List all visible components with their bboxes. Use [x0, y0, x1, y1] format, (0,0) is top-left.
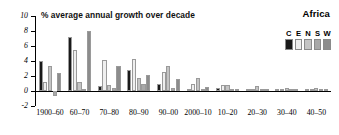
bar-n-1	[77, 82, 81, 91]
y-axis-tick-label: 4	[24, 57, 28, 65]
bar-group	[305, 16, 328, 106]
bar-e-4	[162, 72, 166, 92]
bar-group	[216, 16, 239, 106]
bar-s-0	[53, 91, 57, 96]
bar-w-8	[294, 89, 298, 91]
bar-group	[187, 16, 210, 106]
x-axis-labels: 1900–6060–7070–8080–9090–002000–1010–202…	[35, 108, 331, 122]
bar-s-7	[260, 89, 264, 91]
x-axis-label: 70–80	[99, 108, 119, 118]
bar-s-1	[82, 89, 86, 91]
y-axis-tick: -2	[31, 106, 36, 107]
bar-e-7	[250, 89, 254, 91]
bar-e-6	[221, 85, 225, 91]
bar-s-3	[141, 84, 145, 92]
y-axis-tick: 8	[31, 31, 36, 32]
y-axis-tick-label: 8	[24, 27, 28, 35]
bar-s-2	[112, 88, 116, 91]
bar-e-9	[310, 89, 314, 91]
bar-n-4	[166, 66, 170, 92]
x-axis-label: 1900–60	[36, 108, 63, 118]
y-axis-tick-label: 0	[24, 87, 28, 95]
bar-s-9	[319, 89, 323, 91]
bar-c-9	[305, 89, 309, 91]
bar-group	[157, 16, 180, 106]
bar-group	[98, 16, 121, 106]
y-axis-tick: 6	[31, 46, 36, 47]
bar-w-0	[57, 73, 61, 91]
x-axis-label: 2000–10	[184, 108, 211, 118]
bar-c-1	[68, 37, 72, 91]
bar-n-6	[225, 85, 229, 91]
bar-c-4	[157, 84, 161, 91]
bar-e-5	[191, 84, 195, 91]
africa-growth-bar-chart: % average annual growth over decade Afri…	[0, 0, 339, 135]
x-axis-label: 80–90	[129, 108, 149, 118]
x-axis-label: 10–20	[218, 108, 238, 118]
bar-w-9	[324, 89, 328, 91]
x-axis-label: 60–70	[70, 108, 90, 118]
plot-area: -20246810	[35, 16, 331, 106]
bar-e-8	[280, 89, 284, 91]
bar-n-8	[285, 88, 289, 91]
y-axis-tick: 2	[31, 76, 36, 77]
bar-group	[68, 16, 91, 106]
bar-e-3	[132, 59, 136, 91]
bar-e-2	[102, 60, 106, 91]
bar-group	[246, 16, 269, 106]
bar-s-6	[230, 89, 234, 91]
y-axis-tick: 4	[31, 61, 36, 62]
bar-group	[127, 16, 150, 106]
bar-w-1	[87, 31, 91, 91]
bar-group	[39, 16, 62, 106]
bar-s-4	[171, 88, 175, 91]
x-axis-label: 20–30	[247, 108, 267, 118]
bar-w-3	[146, 75, 150, 92]
bar-c-8	[275, 89, 279, 91]
x-axis-label: 40–50	[307, 108, 327, 118]
bar-n-3	[137, 78, 141, 91]
bar-c-3	[127, 70, 131, 91]
bar-e-1	[73, 50, 77, 91]
bar-c-5	[187, 89, 191, 91]
bar-c-2	[98, 86, 102, 91]
x-axis-label: 30–40	[277, 108, 297, 118]
bar-c-0	[39, 61, 43, 91]
bar-w-2	[116, 66, 120, 91]
y-axis-tick: 10	[31, 16, 36, 17]
x-axis-label: 90–00	[159, 108, 179, 118]
y-axis-tick-label: 6	[24, 42, 28, 50]
bar-w-7	[264, 89, 268, 91]
y-axis-tick-label: -2	[22, 102, 29, 110]
y-axis-tick-label: 2	[24, 72, 28, 80]
bar-n-9	[314, 88, 318, 91]
bar-c-7	[246, 89, 250, 91]
bar-w-5	[205, 87, 209, 91]
bar-n-0	[48, 66, 52, 92]
bar-n-5	[196, 78, 200, 92]
bar-c-6	[216, 88, 220, 91]
bar-n-2	[107, 85, 111, 91]
bar-w-6	[235, 89, 239, 91]
y-axis-line	[35, 16, 36, 106]
y-axis-tick-label: 10	[20, 12, 28, 20]
bar-n-7	[255, 86, 259, 91]
bar-e-0	[43, 82, 47, 91]
bar-s-5	[201, 89, 205, 91]
bar-s-8	[289, 89, 293, 91]
bar-w-4	[176, 79, 180, 91]
bar-group	[275, 16, 298, 106]
